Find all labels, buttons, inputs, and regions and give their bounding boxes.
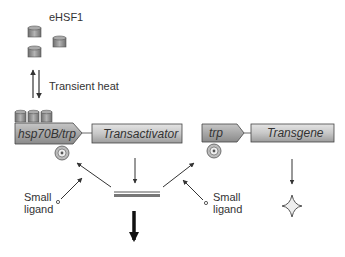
ligand-right-icon xyxy=(204,201,207,204)
transactivator-protein-bar xyxy=(114,191,160,193)
ligand-left-icon xyxy=(56,200,59,203)
binding-arrow-left-icon xyxy=(77,163,111,187)
binding-arrow-right-icon xyxy=(163,163,194,187)
hsf-cylinder-icon xyxy=(28,26,41,37)
ligand-arrow-right-icon xyxy=(183,180,203,200)
transgene-label: Transgene xyxy=(267,126,323,140)
transient-heat-label: Transient heat xyxy=(49,80,119,92)
small-ligand-right-line1: Small xyxy=(213,191,242,203)
small-ligand-left-line2: ligand xyxy=(24,203,53,215)
hsf-cylinder-icon xyxy=(53,36,66,47)
transactivator-label: Transactivator xyxy=(103,127,178,141)
small-ligand-left-line1: Small xyxy=(24,191,53,203)
small-ligand-right-label: Small ligand xyxy=(213,191,242,215)
operator-target-icon xyxy=(55,146,69,160)
small-ligand-left-label: Small ligand xyxy=(24,191,53,215)
product-star-icon xyxy=(282,195,302,217)
ehsf1-label: eHSF1 xyxy=(49,11,83,23)
ligand-arrow-left-icon xyxy=(61,178,82,199)
small-ligand-right-line2: ligand xyxy=(213,203,242,215)
bound-hsf-trimer-icon xyxy=(15,110,52,122)
operator-target-icon xyxy=(207,144,221,158)
promoter-left-label: hsp70B/trp xyxy=(18,127,76,141)
promoter-right-label: trp xyxy=(209,126,223,140)
hsf-cylinder-icon xyxy=(28,46,41,57)
